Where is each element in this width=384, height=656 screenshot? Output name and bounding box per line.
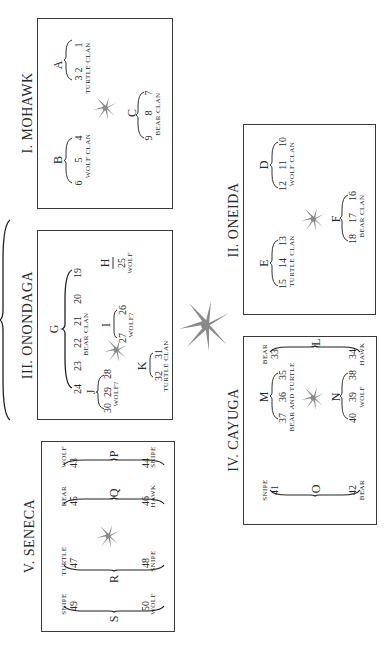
- seat-number: 37: [277, 413, 288, 423]
- seat-number: 47: [68, 558, 79, 568]
- tree-of-peace-icon: [92, 95, 118, 121]
- seat-number: 36: [277, 392, 288, 402]
- seat-number: 14: [277, 258, 288, 268]
- clan-label: BEAR: [358, 480, 366, 500]
- seat-number: 35: [277, 370, 288, 380]
- group-label-i: I: [99, 323, 114, 327]
- seat-number: 12: [277, 181, 288, 191]
- seat-number: 11: [277, 160, 288, 170]
- seat-number: 20: [72, 294, 83, 304]
- nation-title-seneca: V. SENECA: [22, 499, 38, 573]
- clan-label: WOLF: [358, 386, 366, 407]
- clan-label: SNIPE: [149, 550, 157, 571]
- group-label-j: J: [84, 390, 99, 395]
- tree-of-peace-icon: [300, 206, 326, 232]
- clan-label: SNIPE: [149, 446, 157, 467]
- seat-number: 8: [143, 111, 154, 116]
- seat-number: 17: [347, 213, 358, 223]
- group-label-n: N: [329, 393, 344, 402]
- seat-number: 4: [73, 136, 84, 141]
- seat-number: 3: [73, 76, 84, 81]
- seat-number: 33: [269, 349, 280, 359]
- clan-label: TURTLE CLAN: [288, 235, 296, 287]
- group-label-b: B: [51, 156, 66, 164]
- seat-number: 6: [73, 181, 84, 186]
- group-label-h: H: [98, 259, 113, 268]
- clan-label: BEAR AND TURTLE: [288, 362, 296, 431]
- clan-label: BEAR CLAN: [358, 194, 366, 237]
- group-label-a: A: [51, 61, 66, 70]
- group-label-p: P: [107, 451, 122, 458]
- seat-number: 7: [143, 91, 154, 96]
- clan-label: BEAR: [261, 344, 269, 364]
- clan-label: TURTLE CLAN: [162, 340, 170, 392]
- seat-number: 19: [72, 268, 83, 278]
- clan-label: WOLF: [149, 593, 157, 614]
- seat-number: 30: [102, 403, 113, 413]
- clan-label: SNIPE: [60, 593, 68, 614]
- seat-number: 23: [72, 361, 83, 371]
- top-brace: [0, 220, 12, 420]
- group-label-k: K: [135, 362, 150, 371]
- seat-number: 29: [102, 387, 113, 397]
- clan-label: BEAR: [60, 486, 68, 506]
- group-label-o: O: [309, 485, 324, 494]
- seat-number: 2: [73, 68, 84, 73]
- clan-label: BEAR CLAN: [154, 92, 162, 135]
- clan-label: TURTLE: [60, 547, 68, 576]
- seat-number: 24: [72, 384, 83, 394]
- clan-label: WOLF: [60, 446, 68, 467]
- seat-number: 5: [73, 158, 84, 163]
- clan-label: WOLF?: [112, 382, 120, 407]
- seat-number: 18: [347, 234, 358, 244]
- nation-title-oneida: II. ONEIDA: [226, 183, 242, 258]
- seat-number: 13: [277, 236, 288, 246]
- seat-number: 22: [72, 338, 83, 348]
- seat-number: 1: [73, 43, 84, 48]
- group-label-e: E: [257, 259, 272, 266]
- seat-number: 43: [68, 458, 79, 468]
- nation-title-mohawk: I. MOHAWK: [20, 72, 36, 153]
- group-label-c: C: [125, 109, 140, 117]
- group-label-l: L: [309, 338, 324, 345]
- seat-number: 10: [277, 137, 288, 147]
- nation-title-cayuga: IV. CAYUGA: [226, 388, 242, 472]
- seat-number: 42: [347, 485, 358, 495]
- clan-label: HAWK: [149, 485, 157, 508]
- seat-number: 38: [347, 370, 358, 380]
- group-label-s: S: [107, 616, 122, 623]
- group-label-q: Q: [107, 489, 122, 498]
- clan-label: HAWK: [358, 343, 366, 366]
- tree-of-peace-icon: [300, 385, 326, 411]
- seat-number: 21: [72, 316, 83, 326]
- clan-label: WOLF: [126, 252, 134, 273]
- league-seating-diagram: I. MOHAWK A 3 2 1 TURTLE CLAN B 6 5 4 WO…: [0, 0, 384, 656]
- brace-h: [112, 257, 114, 269]
- clan-label: SNIPE: [261, 479, 269, 500]
- seat-number: 34: [347, 349, 358, 359]
- clan-label: WOLF CLAN: [288, 142, 296, 186]
- clan-label: BEAR CLAN: [82, 312, 90, 355]
- great-tree-of-peace-icon: [177, 297, 233, 353]
- group-label-m: M: [257, 392, 272, 403]
- seat-number: 45: [68, 496, 79, 506]
- seat-number: 39: [347, 392, 358, 402]
- group-label-r: R: [107, 575, 122, 583]
- brace-g: [62, 270, 72, 388]
- group-label-f: F: [329, 216, 344, 223]
- seat-number: 41: [269, 485, 280, 495]
- clan-label: TURTLE CLAN: [84, 42, 92, 94]
- clan-label: WOLF CLAN: [84, 134, 92, 178]
- tree-of-peace-icon: [103, 337, 129, 363]
- seat-number: 26: [117, 305, 128, 315]
- seat-number: 9: [143, 136, 154, 141]
- tree-of-peace-icon: [95, 523, 121, 549]
- group-label-g: G: [47, 325, 62, 334]
- group-label-d: D: [257, 161, 272, 170]
- clan-label: WOLF?: [127, 313, 135, 338]
- seat-number: 16: [347, 191, 358, 201]
- seat-number: 49: [68, 601, 79, 611]
- nation-title-onondaga: III. ONONDAGA: [20, 271, 36, 379]
- seat-number: 28: [102, 369, 113, 379]
- seat-number: 40: [347, 413, 358, 423]
